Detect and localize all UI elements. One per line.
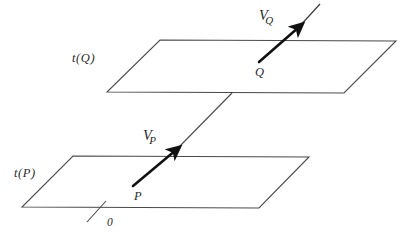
upper-plane: [107, 40, 396, 93]
diagram-svg: [0, 0, 404, 239]
vector-p-shaft: [133, 150, 176, 186]
lower-plane: [22, 156, 309, 208]
lower-plane-outline: [22, 156, 309, 208]
vector-q-extension: [298, 4, 320, 28]
figure-canvas: t(Q) t(P) Q P VQ VP 0: [0, 0, 404, 239]
point-p-label: P: [134, 190, 142, 203]
origin-label: 0: [107, 217, 113, 229]
upper-plane-label: t(Q): [72, 52, 95, 65]
vector-q-subscript: Q: [265, 14, 273, 26]
vector-q-label: VQ: [259, 8, 276, 23]
origin-tick: [87, 201, 106, 222]
lower-plane-label: t(P): [14, 167, 36, 180]
vector-p-label: VP: [143, 128, 159, 143]
plane-connector-line: [178, 93, 232, 148]
vector-q-shaft: [259, 27, 299, 62]
vector-p-subscript: P: [149, 134, 156, 146]
upper-plane-outline: [107, 40, 396, 93]
point-q-label: Q: [255, 66, 264, 79]
